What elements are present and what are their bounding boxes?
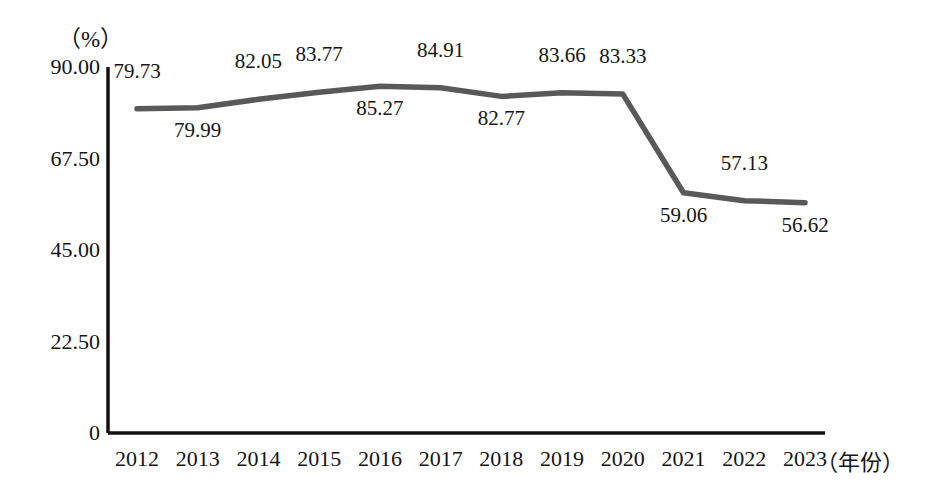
data-point-label: 59.06 [660, 203, 707, 228]
data-point-label: 84.91 [417, 38, 464, 63]
data-series-line [137, 86, 805, 203]
x-axis-tick-label: 2022 [722, 446, 766, 472]
x-axis-tick-label: 2017 [419, 446, 463, 472]
data-point-label: 85.27 [356, 96, 403, 121]
x-axis-tick-label: 2016 [358, 446, 402, 472]
x-axis-tick-label: 2021 [662, 446, 706, 472]
x-axis-tick-label: 2020 [601, 446, 645, 472]
data-point-label: 82.05 [235, 49, 282, 74]
x-axis-tick-label: 2018 [479, 446, 523, 472]
x-axis-title: （年份） [816, 444, 904, 476]
x-axis-tick-label: 2013 [176, 446, 220, 472]
x-axis-tick-label: 2012 [115, 446, 159, 472]
x-axis-tick-label: 2014 [236, 446, 280, 472]
data-point-label: 79.73 [113, 59, 160, 84]
data-point-label: 83.33 [599, 44, 646, 69]
data-point-label: 79.99 [174, 118, 221, 143]
line-chart: （%） 022.5045.0067.5090.00 20122013201420… [0, 0, 928, 494]
data-point-label: 83.77 [296, 42, 343, 67]
data-point-label: 82.77 [478, 106, 525, 131]
data-point-label: 57.13 [721, 151, 768, 176]
x-axis-tick-label: 2015 [297, 446, 341, 472]
x-axis-tick-label: 2019 [540, 446, 584, 472]
data-point-label: 56.62 [781, 213, 828, 238]
data-point-label: 83.66 [538, 43, 585, 68]
